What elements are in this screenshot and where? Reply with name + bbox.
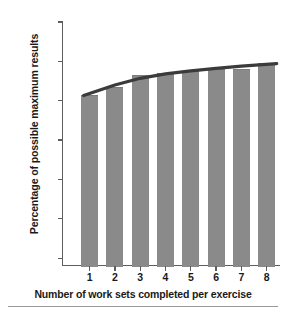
x-axis-tick (165, 266, 166, 271)
x-axis-tick-label: 7 (231, 272, 251, 283)
y-axis-title: Percentage of possible maximum results (28, 14, 40, 254)
bar (132, 75, 149, 267)
y-axis-line (62, 22, 63, 266)
x-axis-tick-label: 2 (105, 272, 125, 283)
y-axis-tick (58, 61, 63, 62)
y-axis-tick (58, 258, 63, 259)
y-axis-tick (58, 218, 63, 219)
x-axis-tick (266, 266, 267, 271)
y-axis-tick (58, 100, 63, 101)
x-axis-tick-label: 3 (130, 272, 150, 283)
bar (106, 87, 123, 267)
y-axis-tick (58, 21, 63, 22)
plot-area: 12345678 (62, 22, 280, 266)
x-axis-tick-label: 1 (80, 272, 100, 283)
bar (258, 63, 275, 267)
bar (182, 71, 199, 267)
x-axis-tick-label: 5 (181, 272, 201, 283)
chart-figure: Percentage of possible maximum results 1… (0, 0, 286, 316)
x-axis-tick (89, 266, 90, 271)
bar (233, 69, 250, 267)
bar (81, 95, 98, 267)
bar (208, 69, 225, 267)
x-axis-tick-label: 6 (206, 272, 226, 283)
y-axis-tick (58, 139, 63, 140)
footer-divider (8, 306, 278, 307)
x-axis-tick (215, 266, 216, 271)
x-axis-title: Number of work sets completed per exerci… (0, 288, 286, 300)
bar (157, 73, 174, 267)
x-axis-tick (114, 266, 115, 271)
y-axis-tick (58, 179, 63, 180)
x-axis-tick-label: 8 (257, 272, 277, 283)
x-axis-tick-label: 4 (156, 272, 176, 283)
x-axis-tick (190, 266, 191, 271)
x-axis-tick (140, 266, 141, 271)
x-axis-tick (241, 266, 242, 271)
